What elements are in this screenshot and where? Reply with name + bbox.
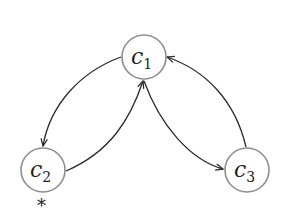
edge-c3-to-c1 xyxy=(167,57,246,147)
edge-c1-to-c2 xyxy=(43,57,121,146)
node-c2: c2 xyxy=(21,148,65,192)
node-c1: c1 xyxy=(122,35,166,79)
node-c3: c3 xyxy=(225,148,269,192)
edge-c1-to-c3 xyxy=(144,81,223,169)
edge-c2-to-c1 xyxy=(66,81,143,171)
asterisk-annotation: * xyxy=(37,195,46,216)
graph-diagram: c1 c2 c3 * xyxy=(0,0,290,218)
